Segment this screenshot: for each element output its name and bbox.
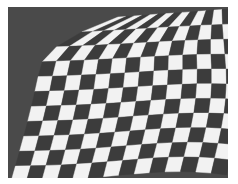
checkerboard-image (8, 7, 228, 178)
warped-checkerboard (8, 7, 228, 178)
